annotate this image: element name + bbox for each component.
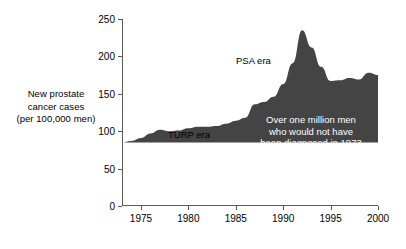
annotation-psa-era: PSA era bbox=[236, 55, 271, 66]
x-tick-label: 2000 bbox=[367, 213, 389, 224]
annotation-turp-era: TURP era bbox=[168, 129, 210, 140]
x-tick-label: 1985 bbox=[225, 213, 247, 224]
annotation-callout: Over one million men who would not have … bbox=[246, 114, 376, 149]
annotation-callout-line-1: Over one million men bbox=[246, 114, 376, 126]
x-tick-label: 1990 bbox=[272, 213, 294, 224]
y-tick-mark bbox=[118, 131, 122, 132]
y-tick-mark bbox=[118, 206, 122, 207]
y-axis-line bbox=[122, 19, 123, 206]
y-axis-title: New prostate cancer cases (per 100,000 m… bbox=[0, 88, 112, 126]
plot-area: 050100150200250 197519801985199019952000… bbox=[122, 19, 378, 206]
y-axis-title-line-1: New prostate bbox=[0, 88, 112, 101]
x-tick-mark bbox=[188, 206, 189, 210]
annotation-callout-line-3: been diagnosed in 1973 bbox=[246, 137, 376, 149]
y-axis-title-line-3: (per 100,000 men) bbox=[0, 113, 112, 126]
y-tick-mark bbox=[118, 169, 122, 170]
y-axis-title-line-2: cancer cases bbox=[0, 101, 112, 114]
y-tick-label: 100 bbox=[98, 126, 115, 137]
chart-figure: New prostate cancer cases (per 100,000 m… bbox=[0, 0, 406, 249]
x-tick-label: 1980 bbox=[177, 213, 199, 224]
y-tick-label: 250 bbox=[98, 14, 115, 25]
y-tick-label: 200 bbox=[98, 51, 115, 62]
area-series-prostate-cancer-incidence bbox=[122, 19, 378, 206]
y-tick-mark bbox=[118, 56, 122, 57]
annotation-callout-line-2: who would not have bbox=[246, 126, 376, 138]
x-tick-label: 1995 bbox=[319, 213, 341, 224]
y-tick-label: 50 bbox=[104, 163, 115, 174]
y-tick-mark bbox=[118, 94, 122, 95]
x-tick-mark bbox=[331, 206, 332, 210]
x-tick-mark bbox=[141, 206, 142, 210]
x-tick-mark bbox=[283, 206, 284, 210]
x-tick-label: 1975 bbox=[130, 213, 152, 224]
x-axis-line bbox=[122, 205, 378, 206]
y-tick-label: 150 bbox=[98, 88, 115, 99]
x-tick-mark bbox=[378, 206, 379, 210]
y-tick-label: 0 bbox=[109, 201, 115, 212]
x-tick-mark bbox=[236, 206, 237, 210]
y-tick-mark bbox=[118, 19, 122, 20]
